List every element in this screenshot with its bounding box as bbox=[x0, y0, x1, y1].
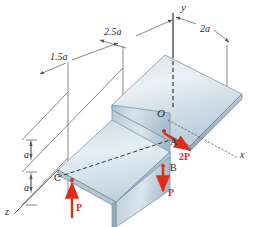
point-label-O: O bbox=[157, 108, 165, 119]
lower-web-edge bbox=[112, 202, 116, 227]
point-B-dot bbox=[161, 164, 165, 168]
force-label-P-down: P bbox=[168, 188, 174, 198]
dim-label-a-lower: a bbox=[24, 183, 29, 193]
point-C-dot bbox=[70, 178, 74, 182]
figure-canvas: y x z 1.5a 2.5a 2a a a O A B C 2P P P bbox=[0, 0, 255, 227]
point-label-C: C bbox=[54, 173, 61, 183]
dim-label-a-upper: a bbox=[24, 150, 29, 160]
x-axis-label: x bbox=[240, 150, 244, 160]
dim-line-1p5a bbox=[34, 48, 120, 76]
dim-label-2p5a: 2.5a bbox=[104, 27, 122, 37]
diagram-svg bbox=[0, 0, 255, 227]
dim-label-2a: 2a bbox=[200, 24, 210, 34]
force-label-P-up: P bbox=[76, 203, 82, 213]
dim-label-1p5a: 1.5a bbox=[50, 52, 68, 62]
rail-upper-short bbox=[22, 92, 68, 140]
force-label-2P: 2P bbox=[179, 152, 190, 162]
z-axis-line bbox=[14, 170, 58, 214]
point-A-dot bbox=[162, 129, 166, 133]
point-label-A: A bbox=[170, 137, 177, 147]
z-axis-label: z bbox=[5, 207, 9, 217]
y-axis-label: y bbox=[181, 2, 186, 13]
point-label-B: B bbox=[170, 163, 177, 173]
